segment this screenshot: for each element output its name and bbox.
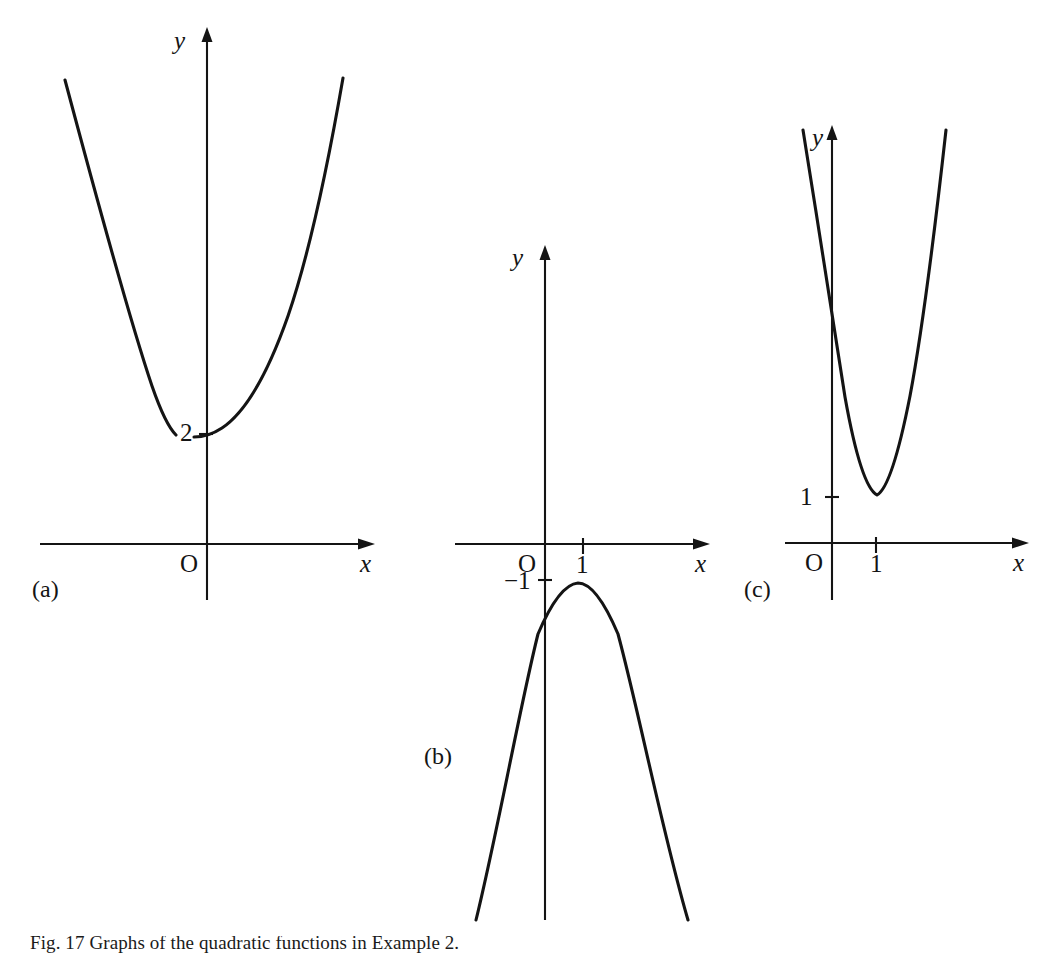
panel-b-y-axis-arrow xyxy=(540,245,551,260)
panel-a-curve-right xyxy=(194,78,343,437)
panel-b-tick-label-y-minus1: −1 xyxy=(504,568,531,593)
panel-c-label: (c) xyxy=(744,577,771,601)
panel-c-tick-label-x-1: 1 xyxy=(870,551,883,576)
panel-b-curve xyxy=(476,583,688,920)
figure-container: y x O 2 (a) y x O 1 −1 (b) y x O 1 1 (c)… xyxy=(0,0,1051,964)
figure-graphics xyxy=(0,0,1051,964)
panel-a-label: (a) xyxy=(32,577,59,601)
panel-b-tick-label-x-1: 1 xyxy=(576,552,589,577)
panel-c-tick-label-y-1: 1 xyxy=(800,484,813,509)
panel-c-origin-label: O xyxy=(805,550,823,575)
panel-c-graph xyxy=(785,125,1029,600)
panel-a-x-axis-label: x xyxy=(360,551,371,576)
panel-c-y-axis-label: y xyxy=(812,125,823,150)
figure-caption-clip: Fig. 17 Graphs of the quadratic function… xyxy=(0,936,1051,964)
panel-a-graph xyxy=(40,27,375,600)
panel-c-y-axis-arrow xyxy=(827,125,838,140)
panel-a-y-axis-label: y xyxy=(174,28,185,53)
panel-b-graph xyxy=(455,245,710,920)
panel-c-curve xyxy=(803,130,946,495)
panel-a-tick-label-2: 2 xyxy=(180,420,193,445)
panel-b-y-axis-label: y xyxy=(512,245,523,270)
figure-caption: Fig. 17 Graphs of the quadratic function… xyxy=(30,936,459,952)
panel-a-x-axis-arrow xyxy=(358,539,375,550)
panel-b-label: (b) xyxy=(424,744,452,768)
panel-c-x-axis-label: x xyxy=(1013,550,1024,575)
panel-a-y-axis-arrow xyxy=(202,27,213,42)
panel-b-x-axis-label: x xyxy=(695,551,706,576)
panel-b-x-axis-arrow xyxy=(693,539,710,550)
panel-c-x-axis-arrow xyxy=(1012,538,1029,549)
panel-a-curve-left xyxy=(65,80,176,435)
panel-a-origin-label: O xyxy=(180,551,198,576)
